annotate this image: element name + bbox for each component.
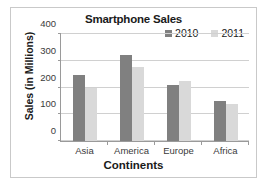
bar-asia-2010[interactable] [73,75,85,141]
x-axis-title: Continents [11,159,256,171]
bar-pair [120,34,144,141]
bar-pair [73,34,97,141]
bar-africa-2010[interactable] [214,101,226,141]
x-tick-label-europe: Europe [155,145,202,156]
bar-america-2010[interactable] [120,55,132,141]
y-tick-label: 400 [40,18,56,29]
bar-group [61,34,108,141]
plot-area: 0100200300400 [61,34,249,141]
bar-group [155,34,202,141]
x-tick-label-asia: Asia [61,145,108,156]
x-tick-label-america: America [108,145,155,156]
bar-group [202,34,249,141]
x-tick-labels: AsiaAmericaEuropeAfrica [61,145,249,156]
y-tick-label: 200 [40,71,56,82]
x-tick-label-africa: Africa [202,145,249,156]
y-tick-label: 0 [51,125,56,136]
bar-africa-2011[interactable] [226,104,238,141]
bar-europe-2010[interactable] [167,85,179,141]
bar-group [108,34,155,141]
bar-america-2011[interactable] [132,67,144,141]
y-axis-title: Sales (in Millions) [23,21,35,131]
bar-pair [214,34,238,141]
bars-layer [61,34,249,141]
bar-asia-2011[interactable] [85,88,97,142]
bar-europe-2011[interactable] [179,81,191,141]
chart-figure: Smartphone Sales 2010 2011 Sales (in Mil… [10,7,257,178]
bar-pair [167,34,191,141]
y-tick-label: 300 [40,44,56,55]
y-tick-label: 100 [40,98,56,109]
